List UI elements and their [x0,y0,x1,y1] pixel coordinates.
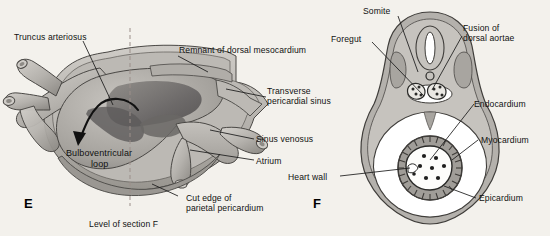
label-heart-wall: Heart wall [288,172,327,182]
label-cut-edge-line1: Cut edge of [186,193,232,203]
label-level-of-section-f: Level of section F [89,219,158,229]
label-transverse-pericardial-sinus-line2: pericardial sinus [267,96,331,106]
label-fusion-dorsal-aortae-line2: dorsal aortae [463,33,514,43]
label-bulboventricular-loop-line2: loop [91,159,108,169]
label-myocardium: Myocardium [481,135,529,145]
somite-right [454,52,472,88]
panel-letter-f: F [313,196,321,211]
label-remnant-dorsal-mesocardium: Remnant of dorsal mesocardium [179,45,306,55]
somite-left [390,52,406,88]
label-foregut: Foregut [331,34,361,44]
label-truncus-arteriosus: Truncus arteriosus [14,32,87,42]
label-bulboventricular-loop-line1: Bulboventricular [66,148,132,158]
label-epicardium: Epicardium [479,193,523,203]
neural-tube-lumen [425,32,435,64]
label-sinus-venosus: Sinus venosus [256,134,313,144]
label-fusion-dorsal-aortae-line1: Fusion of [463,23,499,33]
figure-canvas: Truncus arteriosus Remnant of dorsal mes… [0,0,550,236]
label-atrium: Atrium [256,156,281,166]
label-cut-edge-line2: parietal pericardium [186,203,263,213]
panel-letter-e: E [24,196,33,211]
label-endocardium: Endocardium [474,99,526,109]
label-somite: Somite [363,6,390,16]
label-transverse-pericardial-sinus-line1: Transverse [267,86,311,96]
notochord [426,72,434,80]
